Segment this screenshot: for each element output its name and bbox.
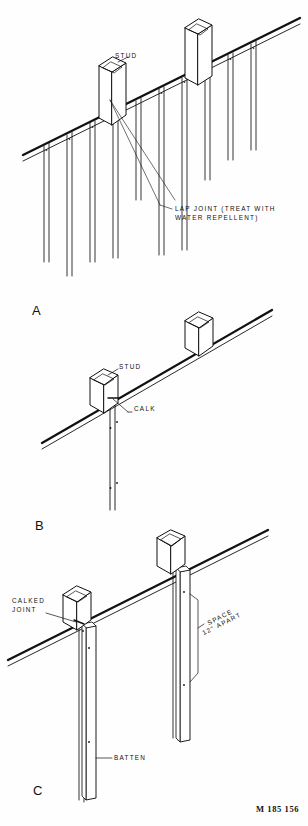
stud-box-c2 xyxy=(157,530,185,574)
label-stud-b: STUD xyxy=(119,363,141,372)
label-batten: BATTEN xyxy=(114,754,146,763)
panel-a-drawing xyxy=(0,0,308,300)
label-calked-joint-line2: JOINT xyxy=(12,606,37,615)
drawing-sheet: STUD LAP JOINT (TREAT WITH WATER REPELLE… xyxy=(0,0,308,826)
stud-box-c1 xyxy=(63,586,91,630)
nail-dots-b xyxy=(110,421,118,489)
panel-c-drawing xyxy=(0,510,308,826)
lap-joint-leader-3 xyxy=(160,205,172,209)
board-batten-right xyxy=(173,566,190,742)
space-bracket xyxy=(190,594,198,682)
label-calk: CALK xyxy=(134,405,156,414)
top-plate-lower-edge-b xyxy=(42,316,272,449)
lap-joint-leader-1 xyxy=(110,100,175,200)
top-plate-upper-edge-c xyxy=(8,530,268,660)
nail-dots-a xyxy=(46,47,255,151)
label-lap-joint-line2: WATER REPELLENT) xyxy=(175,214,259,223)
stud-box-a1 xyxy=(99,57,126,125)
space-bracket-tick xyxy=(198,624,204,628)
label-calked-joint-line1: CALKED xyxy=(12,597,45,606)
siding-board-b xyxy=(110,395,115,510)
top-plate-upper-edge xyxy=(23,18,300,155)
figure-number: M 185 156 xyxy=(256,804,299,814)
panel-letter-c: C xyxy=(33,783,43,798)
lap-joint-leader-2 xyxy=(110,100,160,205)
top-plate-lower-edge-c xyxy=(8,536,268,666)
stud-box-a2 xyxy=(185,19,212,85)
label-lap-joint-line1: LAP JOINT (TREAT WITH xyxy=(175,205,276,214)
siding-boards-group xyxy=(44,41,256,276)
stud-box-b2 xyxy=(185,312,213,356)
stud-box-b1 xyxy=(90,369,118,413)
top-plate-upper-edge-b xyxy=(42,310,272,443)
label-stud-a: STUD xyxy=(115,52,137,61)
board-batten-left xyxy=(79,622,96,802)
